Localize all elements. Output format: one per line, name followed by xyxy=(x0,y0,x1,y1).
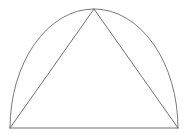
triangle-left-leg-path xyxy=(10,9,94,128)
figure-canvas xyxy=(0,0,189,133)
arc-path xyxy=(10,9,178,128)
geometry-figure xyxy=(0,0,189,133)
triangle-right-leg-path xyxy=(94,9,178,128)
